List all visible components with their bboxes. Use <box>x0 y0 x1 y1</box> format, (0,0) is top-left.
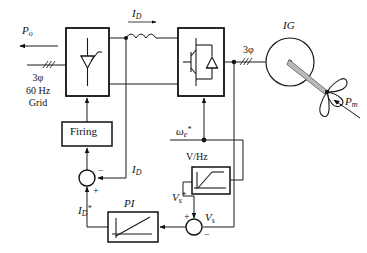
stator-voltage-reference-label: Vs* <box>172 192 186 205</box>
mechanical-power-label: Pm <box>345 96 357 109</box>
power-out-label: Po <box>22 25 33 38</box>
firing-block-label: Firing <box>70 126 97 138</box>
grid-name-label: Grid <box>10 97 66 110</box>
v-per-hz-label: V/Hz <box>186 152 208 163</box>
pi-controller-block <box>87 212 186 242</box>
generator-label: IG <box>283 20 295 32</box>
sum2-minus-sign: − <box>204 229 210 240</box>
sum1-plus-sign: + <box>93 185 99 196</box>
dc-current-label: ID <box>132 8 141 21</box>
dc-link-positive-rail <box>109 34 178 40</box>
stator-voltage-label: Vs <box>205 212 215 225</box>
grid-feed-line <box>27 61 66 68</box>
dc-current-reference-label: ID* <box>78 205 91 218</box>
sum1-minus-sign: − <box>98 165 104 176</box>
sum2-plus-sign: + <box>184 211 190 222</box>
dc-current-feedback-label: ID <box>132 164 141 177</box>
grid-source-label: 3φ 60 Hz Grid <box>10 72 66 110</box>
machine-phase-label: 3φ <box>243 45 254 56</box>
omega-reference-label: ωe* <box>176 126 191 139</box>
inverter-block <box>178 28 224 96</box>
grid-frequency-label: 60 Hz <box>10 85 66 98</box>
pi-block-label: PI <box>124 198 134 210</box>
schematic-canvas: Po 3φ 60 Hz Grid ID 3φ IG Pm Firing ID −… <box>0 0 367 253</box>
machine-feed-line <box>224 58 266 65</box>
rectifier-block <box>66 28 109 96</box>
turbine-blades <box>320 79 347 117</box>
grid-phase-label: 3φ <box>10 72 66 85</box>
